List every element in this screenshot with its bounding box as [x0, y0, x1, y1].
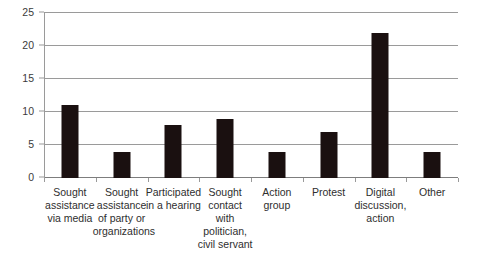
x-tick-mark	[96, 178, 97, 182]
bar	[165, 125, 182, 178]
x-axis-label: Soughtassistanceof party ororganizations	[93, 186, 151, 238]
x-tick-mark	[355, 178, 356, 182]
x-tick-mark	[199, 178, 200, 182]
x-axis-label-line: Sought	[93, 186, 151, 199]
x-axis-label-line: Sought	[41, 186, 99, 199]
x-axis-label-line: Action	[248, 186, 306, 199]
x-axis-label-line: with	[196, 212, 254, 225]
y-tick-label: 10	[0, 105, 34, 117]
x-tick-mark	[303, 178, 304, 182]
y-tick-label: 0	[0, 171, 34, 183]
x-axis-label-line: in a hearing	[144, 199, 202, 212]
x-tick-mark	[148, 178, 149, 182]
x-axis-label-line: assistance	[93, 199, 151, 212]
x-axis-label: Soughtassistancevia media	[41, 186, 99, 225]
x-tick-mark	[44, 178, 45, 182]
y-tick-label: 15	[0, 72, 34, 84]
x-tick-mark	[406, 178, 407, 182]
bar-chart: 0510152025 Soughtassistancevia mediaSoug…	[0, 0, 483, 259]
bar	[217, 119, 234, 178]
y-tick-label: 5	[0, 138, 34, 150]
x-axis-label-line: of party or	[93, 212, 151, 225]
y-tick-label: 25	[0, 6, 34, 18]
x-axis-label-line: organizations	[93, 225, 151, 238]
bar	[268, 152, 285, 178]
x-axis-label-line: via media	[41, 212, 99, 225]
x-axis-label: Soughtcontactwithpolitician,civil servan…	[196, 186, 254, 251]
x-tick-mark	[458, 178, 459, 182]
x-axis-label-line: politician,	[196, 225, 254, 238]
x-axis-label: Digitaldiscussion,action	[351, 186, 409, 225]
x-tick-mark	[251, 178, 252, 182]
bar	[113, 152, 130, 178]
x-axis-label-line: Participated	[144, 186, 202, 199]
x-axis-label: Participatedin a hearing	[144, 186, 202, 212]
y-tick-label: 20	[0, 39, 34, 51]
x-axis-label: Actiongroup	[248, 186, 306, 212]
x-axis-label: Protest	[300, 186, 358, 199]
x-axis-label-line: civil servant	[196, 238, 254, 251]
x-axis-label-line: action	[351, 212, 409, 225]
x-axis-label-line: Digital	[351, 186, 409, 199]
x-axis-label-line: group	[248, 199, 306, 212]
bar	[424, 152, 441, 178]
x-axis-label-line: contact	[196, 199, 254, 212]
bars-layer	[44, 12, 458, 178]
x-axis-label-line: Sought	[196, 186, 254, 199]
x-axis-label-line: Protest	[300, 186, 358, 199]
bar	[372, 33, 389, 178]
bar	[320, 132, 337, 178]
x-axis-label-line: discussion,	[351, 199, 409, 212]
x-axis-label-line: assistance	[41, 199, 99, 212]
x-axis-label: Other	[403, 186, 461, 199]
x-axis-label-line: Other	[403, 186, 461, 199]
x-axis-labels: Soughtassistancevia mediaSoughtassistanc…	[44, 186, 458, 256]
bar	[61, 105, 78, 178]
